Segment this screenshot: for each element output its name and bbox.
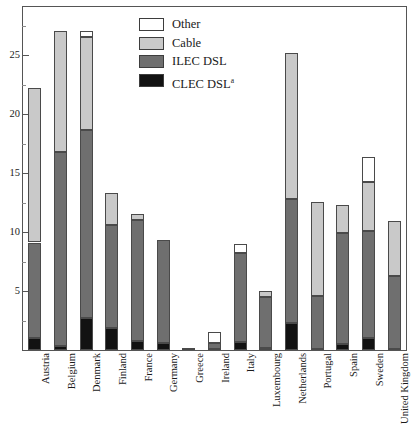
bar-segment-ilec-dsl xyxy=(285,199,298,323)
bar-sweden xyxy=(362,157,375,350)
bar-spain xyxy=(336,205,349,350)
legend: OtherCableILEC DSLCLEC DSLa xyxy=(139,16,269,90)
bar-segment-clec-dsl xyxy=(234,342,247,350)
bar-segment-cable xyxy=(388,221,401,275)
bar-segment-clec-dsl xyxy=(28,338,41,350)
bar-segment-cable xyxy=(28,88,41,243)
x-label-germany: Germany xyxy=(168,353,179,392)
bar-segment-ilec-dsl xyxy=(388,276,401,349)
bar-segment-cable xyxy=(80,37,93,130)
legend-footnote-marker: a xyxy=(231,76,234,85)
bar-segment-ilec-dsl xyxy=(259,297,272,348)
bar-segment-clec-dsl xyxy=(336,344,349,350)
bar-segment-ilec-dsl xyxy=(336,233,349,344)
bar-denmark xyxy=(80,31,93,350)
y-tick-label: 20 xyxy=(10,109,21,119)
bar-segment-cable xyxy=(336,205,349,233)
bar-luxembourg xyxy=(259,291,272,350)
bar-segment-ilec-dsl xyxy=(131,220,144,341)
bar-italy xyxy=(234,244,247,350)
bar-segment-clec-dsl xyxy=(131,341,144,350)
x-label-spain: Spain xyxy=(348,353,359,377)
y-tick-label: 15 xyxy=(10,168,21,178)
bar-segment-ilec-dsl xyxy=(208,343,221,349)
bar-segment-ilec-dsl xyxy=(311,296,324,349)
bar-segment-clec-dsl xyxy=(105,328,118,350)
x-label-portugal: Portugal xyxy=(322,353,333,389)
x-label-austria: Austria xyxy=(40,353,51,384)
bar-segment-cable xyxy=(285,53,298,198)
bar-finland xyxy=(105,193,118,350)
bar-germany xyxy=(157,240,170,350)
legend-label-clec: CLEC DSLa xyxy=(172,72,234,93)
bar-segment-other xyxy=(80,31,93,37)
bar-segment-ilec-dsl xyxy=(157,240,170,343)
legend-label-ilec: ILEC DSL xyxy=(172,53,227,70)
bar-austria xyxy=(28,88,41,350)
legend-swatch-ilec xyxy=(139,55,164,68)
bar-segment-ilec-dsl xyxy=(105,225,118,328)
bar-segment-clec-dsl xyxy=(54,346,67,350)
x-label-luxembourg: Luxembourg xyxy=(271,353,282,407)
bar-segment-cable xyxy=(131,214,144,220)
legend-label-cable: Cable xyxy=(172,35,201,52)
bar-france xyxy=(131,214,144,350)
bar-belgium xyxy=(54,31,67,350)
bar-united-kingdom xyxy=(388,221,401,350)
y-tick-label: 25 xyxy=(10,50,21,60)
legend-swatch-clec xyxy=(139,74,164,87)
bar-segment-other xyxy=(208,332,221,343)
bar-segment-other xyxy=(234,244,247,253)
x-label-ireland: Ireland xyxy=(220,353,231,383)
legend-swatch-cable xyxy=(139,37,164,50)
x-label-denmark: Denmark xyxy=(91,353,102,392)
bar-segment-cable xyxy=(105,193,118,225)
clipped-caption xyxy=(64,0,364,4)
bar-segment-ilec-dsl xyxy=(54,152,67,347)
x-label-italy: Italy xyxy=(245,353,256,372)
y-axis: 510152025 xyxy=(0,0,22,432)
x-label-france: France xyxy=(143,353,154,382)
bar-segment-cable xyxy=(54,31,67,152)
bar-greece xyxy=(182,348,195,350)
bar-segment-ilec-dsl xyxy=(234,253,247,342)
legend-item-other[interactable]: Other xyxy=(139,16,269,35)
bar-netherlands xyxy=(285,53,298,350)
x-label-united-kingdom: United Kingdom xyxy=(399,353,410,424)
bar-segment-ilec-dsl xyxy=(80,130,93,318)
bar-segment-clec-dsl xyxy=(80,318,93,350)
bar-segment-ilec-dsl xyxy=(362,231,375,339)
legend-item-clec[interactable]: CLEC DSLa xyxy=(139,72,269,91)
x-label-sweden: Sweden xyxy=(374,353,385,386)
x-axis-labels: AustriaBelgiumDenmarkFinlandFranceGerman… xyxy=(22,353,407,432)
bar-segment-cable xyxy=(259,291,272,297)
bar-segment-clec-dsl xyxy=(362,338,375,350)
x-label-greece: Greece xyxy=(194,353,205,383)
bar-segment-clec-dsl xyxy=(285,323,298,350)
legend-item-cable[interactable]: Cable xyxy=(139,35,269,54)
legend-swatch-other xyxy=(139,18,164,31)
bar-segment-other xyxy=(362,157,375,182)
bar-segment-cable xyxy=(311,202,324,295)
bar-portugal xyxy=(311,202,324,350)
x-label-netherlands: Netherlands xyxy=(297,353,308,404)
x-label-belgium: Belgium xyxy=(66,353,77,389)
y-tick-label: 5 xyxy=(15,286,20,296)
bar-segment-cable xyxy=(362,182,375,230)
bar-segment-ilec-dsl xyxy=(182,348,195,350)
bar-segment-clec-dsl xyxy=(157,343,170,350)
legend-label-other: Other xyxy=(172,16,200,33)
stacked-bar-chart: 510152025 AustriaBelgiumDenmarkFinlandFr… xyxy=(0,0,413,432)
bar-segment-clec-dsl xyxy=(259,348,272,350)
x-label-finland: Finland xyxy=(117,353,128,385)
y-tick-label: 10 xyxy=(10,227,21,237)
bar-segment-ilec-dsl xyxy=(28,243,41,339)
legend-item-ilec[interactable]: ILEC DSL xyxy=(139,53,269,72)
bar-ireland xyxy=(208,332,221,350)
